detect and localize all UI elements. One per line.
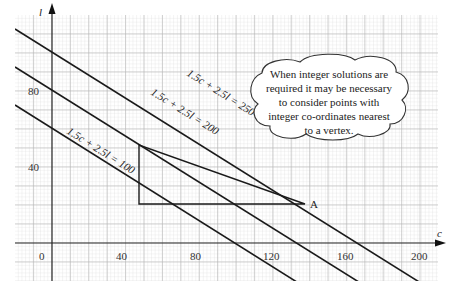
callout-line-5: to a vertex. bbox=[304, 124, 353, 136]
grid-paper bbox=[15, 15, 438, 281]
callout-cloud: When integer solutions are required it m… bbox=[251, 54, 408, 140]
x-axis-arrow-icon bbox=[435, 240, 446, 247]
tick-x-40: 40 bbox=[116, 250, 128, 262]
tick-x-80: 80 bbox=[190, 250, 202, 262]
callout-line-3: to consider points with bbox=[279, 96, 380, 108]
callout-line-1: When integer solutions are bbox=[270, 68, 388, 80]
tick-x-160: 160 bbox=[337, 250, 354, 262]
tick-0: 0 bbox=[39, 250, 45, 262]
y-axis-arrow-icon bbox=[49, 3, 56, 14]
tick-x-200: 200 bbox=[411, 250, 428, 262]
linear-programming-chart: l c 0 40 80 120 160 200 40 80 A 1.5c + 2… bbox=[0, 0, 451, 294]
y-axis-label: l bbox=[39, 6, 42, 18]
tick-x-120: 120 bbox=[263, 250, 280, 262]
callout-line-4: integer co-ordinates nearest bbox=[268, 110, 390, 122]
vertex-a-label: A bbox=[310, 198, 318, 210]
tick-y-80: 80 bbox=[28, 85, 40, 97]
x-axis-label: c bbox=[437, 227, 442, 239]
tick-y-40: 40 bbox=[28, 161, 40, 173]
callout-line-2: required it may be necessary bbox=[266, 82, 392, 94]
